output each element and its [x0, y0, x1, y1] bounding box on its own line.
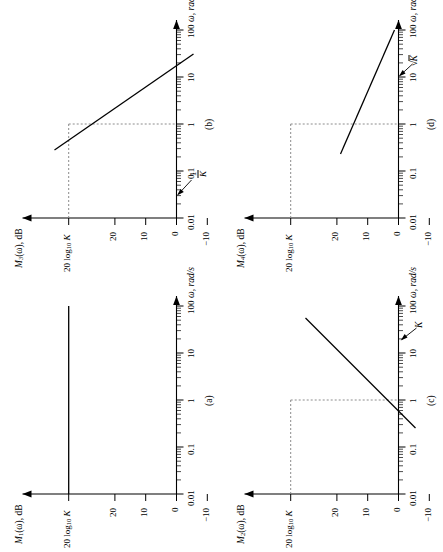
panel-b-caption: (b) — [204, 119, 214, 130]
panel-d-ytick-20: 20 — [330, 232, 339, 241]
panel-d-x-axis-label: ω, rad/s — [408, 0, 418, 22]
panel-a-caption: (a) — [204, 395, 214, 406]
panel-c-curve-ignore — [304, 312, 418, 426]
y-axis-arrow — [22, 491, 31, 498]
panel-d: 0.01 0.1 1 10 100 ω, rad/s −10 0 10 20 2… — [222, 0, 443, 276]
panel-c-ytick-20: 20 — [330, 508, 339, 517]
panel-b-curve — [54, 54, 193, 150]
panel-b-x-axis-label: ω, rad/s — [186, 0, 196, 22]
panel-b-xtick-2: 1 — [186, 123, 195, 128]
panel-d-ytick-m10: −10 — [423, 232, 432, 246]
panel-c-ytick-10: 10 — [361, 508, 370, 517]
panel-b-annotation-one-over-k: 1 K — [188, 170, 207, 178]
panel-c-xtick-0: 0.01 — [408, 490, 417, 506]
panel-d-annotation-arrowhead — [398, 70, 405, 77]
x-axis-arrow — [395, 296, 402, 305]
y-axis-arrow — [22, 215, 31, 222]
panel-d-ytick-0: 0 — [392, 232, 401, 237]
panel-c-xtick-1: 0.1 — [408, 444, 417, 455]
panel-a-y-axis-label: M1(ω), dB — [14, 504, 24, 544]
panel-a-ytick-20: 20 — [108, 508, 117, 517]
panel-b: 0.01 0.1 1 10 100 ω, rad/s −10 0 10 20 2… — [0, 0, 221, 276]
panel-a-xtick-1: 0.1 — [186, 444, 195, 455]
panel-a-xtick-3: 10 — [186, 349, 195, 358]
panel-a-ytick-k: 20 log10 K — [62, 510, 72, 548]
panel-b-xtick-4: 100 — [186, 25, 195, 39]
panel-b-ytick-20: 20 — [108, 232, 117, 241]
y-axis-arrow — [244, 491, 253, 498]
y-axis-arrow — [244, 215, 253, 222]
panel-a-xtick-2: 1 — [186, 399, 195, 404]
panel-d-xtick-0: 0.01 — [408, 214, 417, 230]
panel-c-caption: (c) — [426, 395, 436, 406]
panel-a-ytick-m10: −10 — [201, 508, 210, 522]
panel-d-curve — [340, 30, 394, 154]
panel-b-ytick-m10: −10 — [201, 232, 210, 246]
panel-d-xtick-3: 10 — [408, 73, 417, 82]
panel-b-ytick-10: 10 — [139, 232, 148, 241]
x-axis-arrow — [173, 296, 180, 305]
panel-a-ytick-10: 10 — [139, 508, 148, 517]
panel-d-annotation-sqrt-k: √K — [408, 55, 419, 66]
panel-d-xtick-1: 0.1 — [408, 168, 417, 179]
panel-c-annotation-arrowhead — [400, 334, 407, 341]
panel-c-xtick-3: 10 — [408, 349, 417, 358]
panel-a-ytick-0: 0 — [170, 508, 179, 513]
panel-d-ytick-10: 10 — [361, 232, 370, 241]
panel-c-ytick-m10: −10 — [423, 508, 432, 522]
x-axis-arrow — [395, 20, 402, 29]
panel-b-ytick-k: 20 log10 K — [62, 234, 72, 272]
panel-c-xtick-4: 100 — [408, 301, 417, 315]
panel-c-annotation-k: K — [414, 322, 424, 328]
panel-a-xtick-4: 100 — [186, 301, 195, 315]
panel-a: 0.01 0.1 1 10 100 ω, rad/s −10 0 10 20 2… — [0, 276, 221, 552]
panel-c-xtick-2: 1 — [408, 399, 417, 404]
panel-a-xtick-0: 0.01 — [186, 490, 195, 506]
x-axis-arrow — [173, 20, 180, 29]
panel-b-xtick-3: 10 — [186, 73, 195, 82]
panel-d-xtick-2: 1 — [408, 123, 417, 128]
panel-c-ytick-0: 0 — [392, 508, 401, 513]
panel-d-caption: (d) — [426, 119, 436, 130]
panel-b-y-axis-label: M3(ω), dB — [14, 228, 24, 268]
figure-canvas: 0.01 0.1 1 10 100 ω, rad/s −10 0 10 20 2… — [0, 0, 443, 552]
panel-c-y-axis-label: M2(ω), dB — [236, 504, 246, 544]
panel-d-y-axis-label: M4(ω), dB — [236, 228, 246, 268]
panel-d-ytick-k: 20 log10 K — [284, 234, 294, 272]
panel-c: 0.01 0.1 1 10 100 ω, rad/s −10 0 10 20 2… — [222, 276, 443, 552]
panel-b-ytick-0: 0 — [170, 232, 179, 237]
panel-d-xtick-4: 100 — [408, 25, 417, 39]
panel-c-ytick-k: 20 log10 K — [284, 510, 294, 548]
panel-b-xtick-0: 0.01 — [186, 214, 195, 230]
